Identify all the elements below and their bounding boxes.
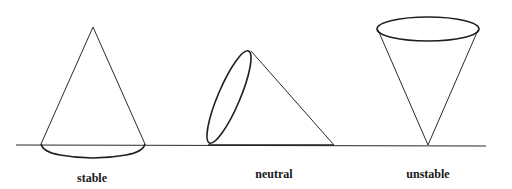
stable-cone-left-edge (41, 27, 93, 144)
label-unstable: unstable (406, 167, 450, 181)
unstable-cone-left-edge (378, 30, 428, 145)
stable-cone-base (41, 144, 145, 158)
unstable-cone (377, 17, 479, 145)
label-stable: stable (77, 171, 108, 185)
label-neutral: neutral (255, 167, 293, 181)
neutral-cone (199, 47, 334, 148)
unstable-cone-right-edge (428, 30, 478, 145)
stable-cone (41, 27, 145, 158)
stable-cone-right-edge (93, 27, 145, 144)
neutral-cone-base (199, 47, 258, 148)
cone-equilibrium-diagram: stable neutral unstable (0, 0, 512, 189)
neutral-cone-upper-edge (251, 51, 334, 145)
unstable-cone-base (377, 17, 479, 41)
